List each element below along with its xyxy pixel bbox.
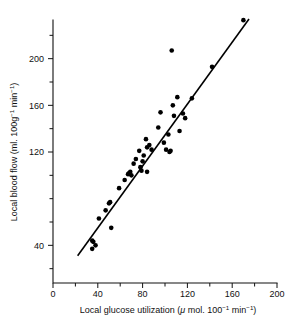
x-tick-label: 200 [269,289,284,299]
data-point [175,95,180,100]
regression-line [78,19,249,256]
data-point [134,157,139,162]
data-point [144,137,149,142]
x-tick-label: 160 [225,289,240,299]
data-point [210,65,215,70]
data-points [90,18,246,251]
data-point [117,186,122,191]
data-point [172,114,177,119]
data-point [156,125,161,130]
data-point [241,18,246,23]
data-point [183,116,188,121]
data-point [158,110,163,115]
data-point [181,111,186,116]
y-tick-label: 40 [34,241,44,251]
data-point [177,129,182,134]
data-point [162,140,167,145]
scatter-plot-figure: 40120160200 04080120160200 Local glucose… [0,0,290,329]
data-point [109,226,114,231]
x-tick-label: 40 [93,289,103,299]
chart-canvas: 40120160200 04080120160200 Local glucose… [0,0,290,329]
y-axis-tick-labels: 40120160200 [29,54,44,251]
x-axis-ticks [53,283,277,288]
data-point [122,178,127,183]
data-point [140,159,145,164]
data-point [97,216,102,221]
data-point [103,208,108,213]
x-tick-label: 120 [180,289,195,299]
y-axis-title: Local blood flow (ml. 100g−1 min−1) [8,83,19,222]
regression-line-segment [78,19,249,256]
data-point [169,48,174,53]
data-point [147,143,152,148]
y-tick-label: 120 [29,147,44,157]
data-point [149,147,154,152]
data-point [171,103,176,108]
x-axis-title: Local glucose utilization (μ mol. 100−1 … [80,304,257,315]
data-point [141,153,146,158]
data-point [90,247,95,252]
x-tick-label: 0 [50,289,55,299]
data-point [129,173,134,178]
data-point [93,243,98,248]
data-point [166,132,171,137]
data-point [139,168,144,173]
y-axis-title-text: Local blood flow (ml. 100g−1 min−1) [8,83,19,222]
x-axis-title-text: Local glucose utilization (μ mol. 100−1 … [80,304,257,315]
data-point [168,149,173,154]
y-tick-label: 160 [29,101,44,111]
data-point [190,96,195,101]
y-axis-ticks [48,35,53,268]
data-point [137,149,142,154]
data-point [145,170,150,175]
x-tick-label: 80 [138,289,148,299]
data-point [131,161,136,166]
y-tick-label: 200 [29,54,44,64]
data-point [108,200,113,205]
x-axis-tick-labels: 04080120160200 [50,289,284,299]
